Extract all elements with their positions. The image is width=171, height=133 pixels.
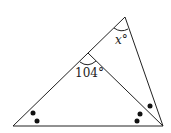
angle-x-label: x° bbox=[115, 33, 128, 47]
angle-markers bbox=[31, 104, 153, 124]
angle-arc-104 bbox=[80, 61, 96, 65]
left-side bbox=[13, 17, 125, 126]
cevian bbox=[88, 53, 163, 126]
angle-104-label: 104° bbox=[75, 66, 104, 80]
angle-arc-x bbox=[114, 28, 128, 31]
right-side bbox=[125, 17, 163, 126]
triangle-diagram: x° 104° bbox=[0, 0, 171, 133]
